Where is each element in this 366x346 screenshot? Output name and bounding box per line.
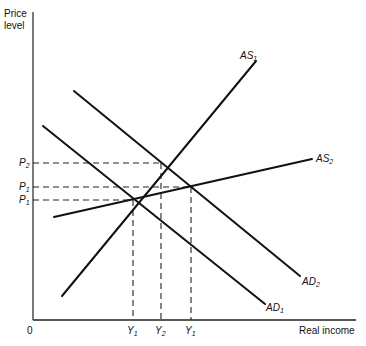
ad2-curve	[74, 91, 300, 276]
origin-label: 0	[27, 325, 33, 336]
as2-label: AS2	[316, 153, 333, 167]
diagram-canvas	[0, 0, 366, 346]
as1-label: AS1	[240, 50, 257, 64]
ad1-label: AD1	[266, 302, 284, 316]
p1-upper-label: P1	[19, 181, 30, 195]
y1-right-label: Y1	[185, 325, 196, 339]
p1-lower-label: P1	[19, 194, 30, 208]
x-axis-label: Real income	[299, 325, 355, 336]
ad2-label: AD2	[302, 276, 320, 290]
y2-label: Y2	[155, 325, 166, 339]
as2-curve	[54, 159, 312, 217]
y1-left-label: Y1	[127, 325, 138, 339]
p2-label: P2	[19, 157, 30, 171]
y-axis-label: Price level	[4, 8, 27, 32]
